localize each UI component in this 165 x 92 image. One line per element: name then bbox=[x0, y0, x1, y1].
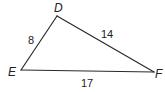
triangle-shape bbox=[21, 16, 154, 72]
vertex-label-e: E bbox=[8, 65, 17, 79]
vertex-label-f: F bbox=[155, 67, 163, 81]
side-de bbox=[21, 16, 57, 70]
side-df bbox=[57, 16, 154, 72]
side-ef bbox=[21, 70, 154, 72]
side-label-df: 14 bbox=[101, 28, 113, 40]
side-label-de: 8 bbox=[28, 34, 34, 46]
triangle-def-diagram: D E F 8 14 17 bbox=[0, 0, 165, 92]
vertex-label-d: D bbox=[54, 1, 63, 15]
side-label-ef: 17 bbox=[81, 77, 93, 89]
